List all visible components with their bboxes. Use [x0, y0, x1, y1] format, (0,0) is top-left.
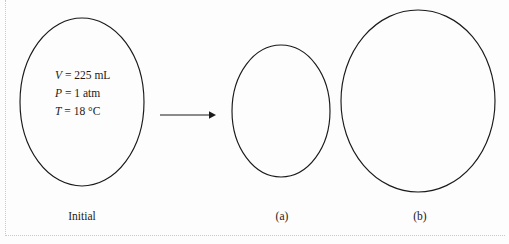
figure-canvas: V = 225 mL P = 1 atm T = 18 °C Initial (…: [0, 0, 509, 244]
caption-a: (a): [240, 210, 324, 222]
volume-equals: =: [65, 69, 72, 81]
temperature-equals: =: [64, 105, 71, 117]
pressure-symbol: P: [55, 87, 62, 99]
temperature-value: 18 °C: [74, 105, 101, 117]
temperature-symbol: T: [55, 105, 61, 117]
property-volume: V = 225 mL: [55, 66, 145, 84]
property-pressure: P = 1 atm: [55, 84, 145, 102]
arrow-head-icon: [209, 111, 216, 119]
property-temperature: T = 18 °C: [55, 102, 145, 120]
transition-arrow: [160, 111, 216, 119]
pressure-value: 1 atm: [74, 87, 100, 99]
caption-initial: Initial: [40, 210, 124, 222]
pressure-equals: =: [65, 87, 72, 99]
figure-graphics: [0, 0, 509, 244]
volume-symbol: V: [55, 69, 62, 81]
balloon-b: [341, 10, 495, 192]
volume-value: 225 mL: [74, 69, 110, 81]
balloon-a: [232, 45, 330, 177]
initial-state-properties: V = 225 mL P = 1 atm T = 18 °C: [55, 66, 145, 120]
caption-b: (b): [378, 210, 462, 222]
